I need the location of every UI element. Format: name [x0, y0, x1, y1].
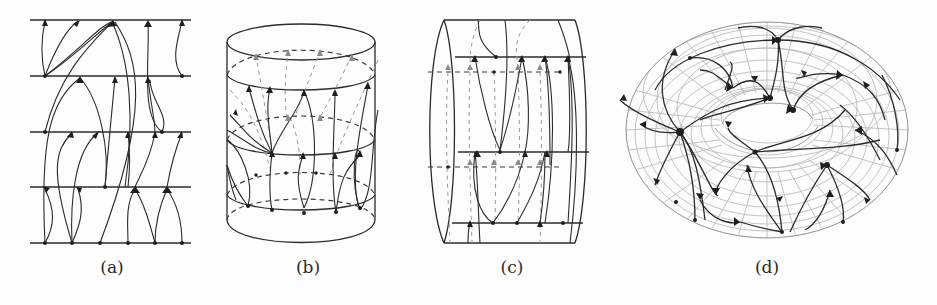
panel-a: (a)	[0, 0, 200, 305]
back-rings	[227, 50, 375, 195]
caption-c: (c)	[482, 257, 542, 277]
torus-meridians	[626, 22, 908, 238]
panel-d: (d)	[600, 0, 937, 305]
field-curves	[227, 85, 378, 212]
field-curves	[468, 20, 577, 243]
front-rings	[227, 75, 375, 210]
hidden-field-lines	[447, 20, 542, 243]
caption-b: (b)	[278, 257, 338, 277]
torus-grid	[626, 22, 908, 238]
nodes	[246, 171, 362, 215]
panel-b: (b)	[200, 0, 400, 305]
caption-d: (d)	[737, 257, 797, 277]
arrowheads	[42, 19, 185, 193]
panel-c: (c)	[400, 0, 600, 305]
cylinder-outline	[430, 20, 587, 243]
caption-a: (a)	[82, 257, 142, 277]
nodes	[43, 74, 184, 245]
